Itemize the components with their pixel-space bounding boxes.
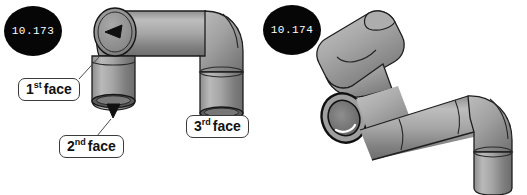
leader-line-second-face	[97, 119, 111, 136]
right-end-cylinder	[474, 152, 512, 195]
callout-third-face: 3rdface	[186, 115, 249, 138]
callout-second-face-word: face	[88, 138, 116, 154]
callout-first-face-word: face	[44, 81, 72, 97]
callout-third-face-ordinal: rd	[202, 117, 211, 127]
badge-right: 10.174	[263, 5, 321, 55]
callout-first-face: 1stface	[18, 78, 80, 101]
callout-first-face-number: 1	[26, 81, 34, 97]
callout-second-face-ordinal: nd	[75, 137, 86, 147]
callout-second-face: 2ndface	[59, 135, 124, 158]
badge-left: 10.173	[4, 6, 62, 56]
pipe-assembly-right	[314, 11, 512, 195]
callout-first-face-ordinal: st	[34, 80, 42, 90]
callout-third-face-number: 3	[194, 118, 202, 134]
callout-third-face-word: face	[213, 118, 241, 134]
left-right-elbow	[200, 11, 243, 72]
callout-second-face-number: 2	[67, 138, 75, 154]
figure-canvas: 10.173 10.174 1stface 2ndface 3rdface	[0, 0, 527, 195]
arrow-second-face	[107, 104, 120, 118]
